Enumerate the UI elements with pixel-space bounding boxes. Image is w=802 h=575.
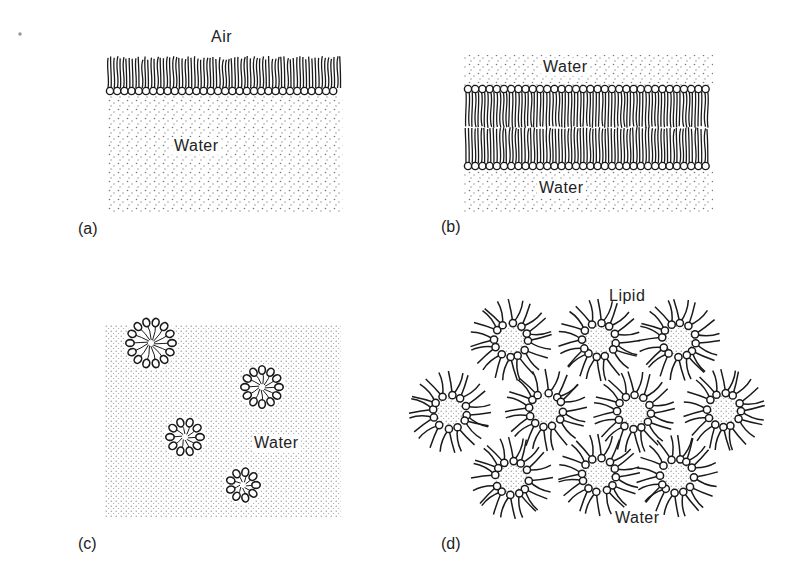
label-lipid: Lipid bbox=[609, 287, 645, 305]
label-water-b-top: Water bbox=[541, 58, 590, 76]
stray-mark bbox=[18, 32, 22, 36]
label-water-d: Water bbox=[615, 509, 660, 527]
panel-d-reverse-micelles bbox=[409, 299, 765, 519]
lipid-diagram bbox=[0, 0, 802, 575]
panel-label-c: (c) bbox=[78, 535, 97, 553]
panel-a-monolayer bbox=[106, 56, 343, 213]
panel-label-b: (b) bbox=[441, 218, 461, 236]
label-water-b-bottom: Water bbox=[537, 179, 586, 197]
label-air: Air bbox=[211, 28, 232, 46]
panel-b-bilayer bbox=[463, 55, 713, 212]
label-water-a: Water bbox=[172, 137, 221, 155]
panel-c-micelles bbox=[105, 316, 341, 517]
label-water-c: Water bbox=[252, 434, 301, 452]
panel-label-d: (d) bbox=[441, 535, 461, 553]
panel-label-a: (a) bbox=[78, 220, 98, 238]
